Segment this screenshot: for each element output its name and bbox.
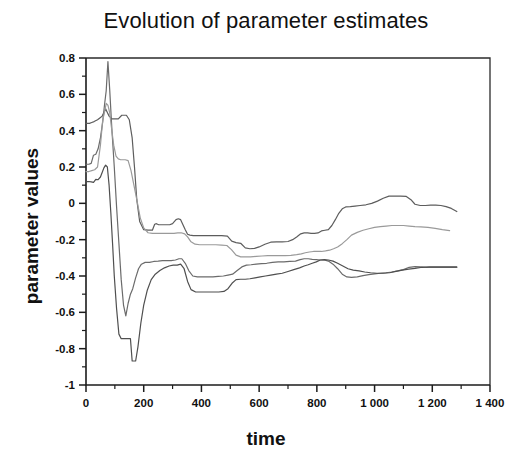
series-line-theta3 xyxy=(86,103,450,257)
x-tick-label: 800 xyxy=(307,397,326,409)
plot-area: 0.80.60.40.20-0.2-0.4-0.6-0.8-1020040060… xyxy=(0,0,532,462)
x-tick-label: 200 xyxy=(134,397,153,409)
axis-ticks xyxy=(79,58,490,392)
y-tick-label: 0.4 xyxy=(59,125,76,137)
x-tick-label: 1 200 xyxy=(418,397,447,409)
axis-tick-labels: 0.80.60.40.20-0.2-0.4-0.6-0.8-1020040060… xyxy=(55,52,504,409)
y-tick-label: 0 xyxy=(69,197,75,209)
y-tick-label: -0.2 xyxy=(55,234,75,246)
y-tick-label: -1 xyxy=(65,379,76,391)
x-tick-label: 1 400 xyxy=(476,397,505,409)
x-tick-label: 600 xyxy=(250,397,269,409)
y-tick-label: -0.8 xyxy=(55,343,75,355)
x-tick-label: 400 xyxy=(192,397,211,409)
data-series-group xyxy=(86,62,457,361)
y-tick-label: 0.2 xyxy=(59,161,75,173)
frame-top-right xyxy=(86,58,490,385)
chart-figure: Evolution of parameter estimates paramet… xyxy=(0,0,532,462)
x-tick-label: 1 000 xyxy=(360,397,389,409)
frame-left-bottom xyxy=(86,58,490,385)
series-line-theta2 xyxy=(86,62,457,316)
series-line-theta1 xyxy=(86,109,457,249)
y-tick-label: -0.6 xyxy=(55,306,75,318)
x-tick-label: 0 xyxy=(83,397,89,409)
axis-frame xyxy=(86,58,490,385)
y-tick-label: -0.4 xyxy=(55,270,75,282)
y-tick-label: 0.6 xyxy=(59,88,75,100)
y-tick-label: 0.8 xyxy=(59,52,76,64)
